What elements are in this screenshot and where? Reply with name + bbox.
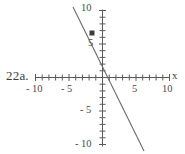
- x-axis-label: x: [172, 70, 178, 81]
- x-tick-label-neg5: - 5: [61, 84, 72, 95]
- y-tick-label-5: 5: [88, 38, 93, 49]
- plotted-point-marker: [90, 31, 95, 36]
- y-tick-label-neg5: - 5: [80, 105, 91, 116]
- plotted-line: [73, 7, 144, 151]
- x-tick-label-neg10: - 10: [26, 84, 43, 95]
- x-tick-label-5: 5: [132, 84, 137, 95]
- x-tick-label-10: 10: [162, 84, 173, 95]
- graph-figure: 22a. x - 10 - 5 5 10 10 5 - 5 - 10: [0, 0, 185, 154]
- problem-number-label: 22a.: [6, 69, 29, 82]
- y-tick-label-neg10: - 10: [75, 139, 92, 150]
- y-tick-label-10: 10: [81, 3, 92, 14]
